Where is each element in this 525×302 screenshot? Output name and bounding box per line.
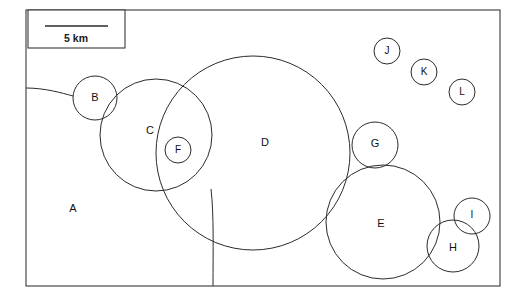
region-label-C: C — [146, 124, 154, 136]
region-label-E: E — [377, 217, 384, 229]
region-label-D: D — [261, 136, 269, 148]
region-label-H: H — [449, 241, 457, 253]
region-label-F: F — [175, 144, 181, 155]
region-label-J: J — [385, 45, 390, 56]
region-label-G: G — [371, 137, 380, 149]
region-label-I: I — [471, 209, 474, 220]
map-svg: A B C D E F G H I J K L 5 km — [0, 0, 525, 302]
map-figure: A B C D E F G H I J K L 5 km — [0, 0, 525, 302]
scale-bar-label: 5 km — [64, 32, 88, 44]
region-label-K: K — [421, 66, 428, 77]
region-label-A: A — [69, 202, 77, 214]
region-label-L: L — [459, 86, 465, 97]
region-label-B: B — [91, 91, 98, 103]
